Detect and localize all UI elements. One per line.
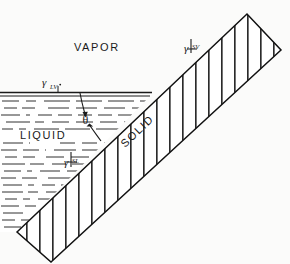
gamma-lv-annotation: γ LV xyxy=(42,76,61,93)
gamma-lv-symbol: γ xyxy=(42,76,47,88)
gamma-sv-annotation: γ SV xyxy=(184,39,200,54)
phase-label-vapor: VAPOR xyxy=(74,41,120,53)
phase-label-liquid: LIQUID xyxy=(20,129,66,141)
contact-angle-figure: θ γ LV γ SV γ SL VAPOR LIQUID SOLID xyxy=(0,0,290,264)
gamma-lv-subscript: LV xyxy=(49,83,58,90)
gamma-sl-subscript: SL xyxy=(72,157,79,164)
contact-angle-label: θ xyxy=(83,113,89,127)
gamma-sv-symbol: γ xyxy=(184,42,189,54)
figure-canvas: θ γ LV γ SV γ SL VAPOR LIQUID SOLID xyxy=(0,0,290,264)
